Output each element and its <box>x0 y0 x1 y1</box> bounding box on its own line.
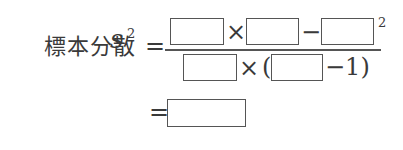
variance-variable: s <box>110 24 123 54</box>
minus-sign: − <box>301 20 321 44</box>
denominator-times-sign: × <box>239 56 259 80</box>
fraction-line <box>165 49 381 51</box>
result-box[interactable] <box>167 99 246 127</box>
numerator-exponent: 2 <box>378 15 386 30</box>
numerator-box-3[interactable] <box>321 18 374 45</box>
variable-s: s <box>110 24 123 54</box>
numerator-box-2[interactable] <box>246 18 299 45</box>
open-paren: ( <box>262 55 271 79</box>
variable-exponent: 2 <box>127 26 135 41</box>
equals-sign: = <box>145 34 165 58</box>
denominator-box-2[interactable] <box>271 54 323 81</box>
minus-one: −1) <box>325 55 370 79</box>
numerator-box-1[interactable] <box>170 18 224 45</box>
times-sign: × <box>226 20 246 44</box>
denominator-box-1[interactable] <box>183 54 237 81</box>
